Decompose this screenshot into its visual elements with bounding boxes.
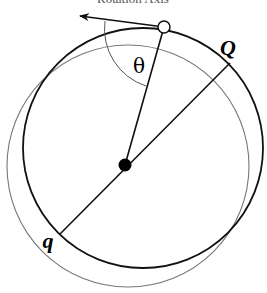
label-q: q (43, 228, 54, 253)
tangent-arrow (80, 16, 164, 27)
pole-marker (158, 21, 170, 33)
theta-label: θ (133, 54, 145, 78)
label-Q: Q (220, 35, 236, 60)
diagram-title: Rotation Axis (97, 0, 169, 6)
center-dot (119, 159, 132, 172)
rotation-diagram: Rotation Axis θ Q q (0, 0, 267, 293)
diameter-line (60, 63, 230, 234)
radius-line (125, 27, 164, 165)
